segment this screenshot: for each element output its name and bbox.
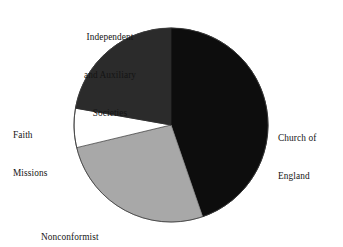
pie-label-line: Independent bbox=[60, 31, 160, 44]
pie-label-line: Nonconformist bbox=[41, 231, 141, 244]
pie-label-church-of-england: Church of England bbox=[278, 107, 342, 208]
pie-label-line: Church of bbox=[278, 132, 342, 145]
pie-label-line: Missions bbox=[13, 167, 75, 180]
pie-label-line: England bbox=[278, 170, 342, 183]
pie-chart-figure: Independent and Auxiliary Societies Fait… bbox=[0, 0, 343, 247]
pie-label-line: Societies bbox=[60, 107, 160, 120]
pie-label-line: Faith bbox=[13, 129, 75, 142]
pie-label-independent-and-auxiliary-societies: Independent and Auxiliary Societies bbox=[60, 6, 160, 145]
pie-label-line: and Auxiliary bbox=[60, 69, 160, 82]
pie-label-faith-missions: Faith Missions bbox=[13, 104, 75, 205]
pie-label-nonconformist: Nonconformist bbox=[41, 206, 141, 247]
